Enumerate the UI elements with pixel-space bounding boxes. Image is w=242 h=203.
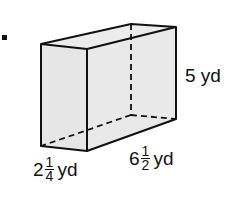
- front-face: [41, 44, 87, 151]
- length-label: 6 1 2 yd: [129, 145, 173, 172]
- length-fraction: 1 2: [141, 145, 151, 172]
- width-denominator: 4: [46, 170, 54, 183]
- length-denominator: 2: [142, 159, 150, 172]
- width-fraction: 1 4: [45, 156, 55, 183]
- height-label: 5 yd: [185, 66, 221, 85]
- length-unit: yd: [153, 149, 173, 168]
- length-whole: 6: [129, 149, 140, 168]
- width-label: 2 1 4 yd: [33, 156, 77, 183]
- width-whole: 2: [33, 160, 44, 179]
- height-label-text: 5 yd: [185, 65, 221, 86]
- problem-marker-dot: [2, 35, 7, 40]
- width-unit: yd: [57, 160, 77, 179]
